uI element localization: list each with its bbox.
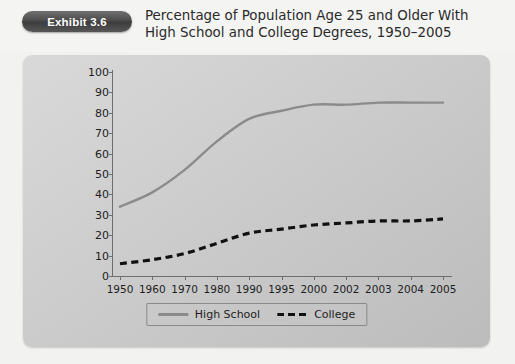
y-tick-label: 0 xyxy=(102,270,109,283)
legend-item-high-school: High School xyxy=(158,308,260,321)
legend-swatch-college-icon xyxy=(277,313,307,316)
x-tick-label: 1995 xyxy=(268,283,295,295)
x-tick-label: 2000 xyxy=(300,283,327,295)
chart-legend: High School College xyxy=(146,303,367,326)
plot-area: 0102030405060708090100 19501960197019801… xyxy=(113,72,450,276)
x-tick-mark xyxy=(314,276,315,280)
legend-label-college: College xyxy=(314,308,355,321)
x-tick-label: 2004 xyxy=(397,283,424,295)
x-tick-mark xyxy=(443,276,444,280)
series-line-high-school xyxy=(120,102,443,206)
y-tick-label: 60 xyxy=(95,147,109,160)
y-tick-label: 40 xyxy=(95,188,109,201)
x-tick-label: 2003 xyxy=(365,283,392,295)
y-tick-label: 10 xyxy=(95,249,109,262)
legend-item-college: College xyxy=(277,308,355,321)
x-tick-mark xyxy=(185,276,186,280)
x-tick-mark xyxy=(120,276,121,280)
x-tick-mark xyxy=(282,276,283,280)
y-tick-label: 70 xyxy=(95,127,109,140)
exhibit-badge-label: Exhibit 3.6 xyxy=(47,16,107,28)
y-tick-label: 20 xyxy=(95,229,109,242)
chart-panel: 0102030405060708090100 19501960197019801… xyxy=(23,55,490,347)
y-tick-label: 90 xyxy=(95,86,109,99)
x-tick-mark xyxy=(249,276,250,280)
exhibit-badge: Exhibit 3.6 xyxy=(22,11,132,32)
series-line-college xyxy=(120,219,443,264)
exhibit-header: Exhibit 3.6 Percentage of Population Age… xyxy=(0,0,515,52)
x-tick-mark xyxy=(152,276,153,280)
y-tick-label: 100 xyxy=(88,66,109,79)
y-tick-label: 30 xyxy=(95,208,109,221)
y-tick-label: 80 xyxy=(95,106,109,119)
x-tick-mark xyxy=(378,276,379,280)
y-tick-mark xyxy=(109,276,113,277)
x-tick-label: 2002 xyxy=(333,283,360,295)
x-tick-label: 1990 xyxy=(236,283,263,295)
x-tick-label: 1950 xyxy=(107,283,134,295)
x-tick-mark xyxy=(217,276,218,280)
x-tick-label: 2005 xyxy=(430,283,457,295)
legend-swatch-high-school-icon xyxy=(158,313,188,316)
x-tick-mark xyxy=(346,276,347,280)
x-tick-label: 1960 xyxy=(139,283,166,295)
y-tick-label: 50 xyxy=(95,168,109,181)
x-tick-mark xyxy=(411,276,412,280)
series-lines xyxy=(113,72,450,276)
page-title: Percentage of Population Age 25 and Olde… xyxy=(145,7,500,41)
legend-label-high-school: High School xyxy=(195,308,260,321)
x-tick-label: 1980 xyxy=(204,283,231,295)
x-tick-label: 1970 xyxy=(171,283,198,295)
